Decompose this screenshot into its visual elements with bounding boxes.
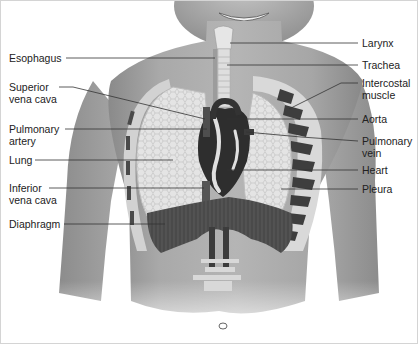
label-lung: Lung (9, 154, 32, 166)
superior-vena-cava (203, 107, 210, 137)
label-inferior-vena-cava: Inferiorvena cava (9, 182, 57, 206)
diagram-frame: Esophagus Superiorvena cava Pulmonaryart… (0, 0, 418, 344)
larynx (214, 26, 233, 49)
label-heart: Heart (362, 164, 388, 176)
label-aorta: Aorta (362, 113, 387, 125)
label-intercostal-muscle: Intercostalmuscle (362, 77, 410, 101)
label-pleura: Pleura (362, 183, 392, 195)
label-larynx: Larynx (362, 37, 394, 49)
label-esophagus: Esophagus (9, 52, 62, 64)
thorax-illustration (1, 1, 418, 344)
label-pulmonary-vein: Pulmonaryvein (362, 135, 412, 159)
label-pulmonary-artery: Pulmonaryartery (9, 123, 59, 147)
label-diaphragm: Diaphragm (9, 218, 60, 230)
label-trachea: Trachea (362, 59, 400, 71)
label-superior-vena-cava: Superiorvena cava (9, 81, 57, 105)
